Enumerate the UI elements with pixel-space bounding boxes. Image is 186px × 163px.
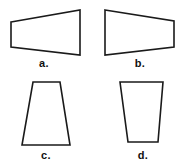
shape-label-c: c. xyxy=(41,150,51,161)
trapezoid-a xyxy=(11,10,80,55)
shapes-canvas xyxy=(0,0,186,163)
shape-label-a: a. xyxy=(39,58,49,69)
trapezoid-b xyxy=(105,10,174,55)
shape-label-b: b. xyxy=(135,58,145,69)
trapezoid-d xyxy=(120,82,163,142)
geometry-figure: a. b. c. d. xyxy=(0,0,186,163)
trapezoid-c xyxy=(22,82,70,145)
shape-label-d: d. xyxy=(138,150,148,161)
